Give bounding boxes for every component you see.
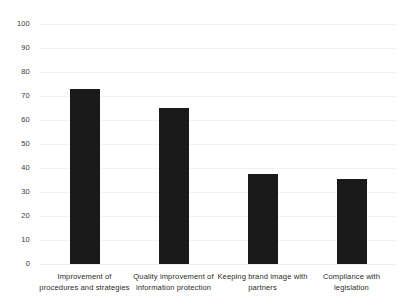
x-axis-category-label: Keeping brand image withpartners — [212, 272, 313, 293]
y-axis-tick-label: 60 — [0, 116, 30, 124]
bar — [248, 174, 278, 264]
bar — [70, 89, 100, 264]
x-axis-category-label-line: procedures and strategies — [34, 283, 135, 294]
bar — [337, 179, 367, 264]
x-axis-category-label-line: Improvement of — [34, 272, 135, 283]
x-axis-category-label-line: partners — [212, 283, 313, 294]
y-axis-tick-label: 40 — [0, 164, 30, 172]
x-axis-category-label-line: Quality improvement of — [123, 272, 224, 283]
x-axis-category-label: Improvement ofprocedures and strategies — [34, 272, 135, 293]
x-axis-category-label: Quality improvement ofinformation protec… — [123, 272, 224, 293]
y-axis-tick-label: 80 — [0, 68, 30, 76]
plot-area — [40, 24, 396, 264]
y-axis-tick-label: 90 — [0, 44, 30, 52]
x-axis-category-label-line: information protection — [123, 283, 224, 294]
x-axis-category-label-line: Keeping brand image with — [212, 272, 313, 283]
y-axis-tick-label: 100 — [0, 20, 30, 28]
x-axis-labels: Improvement ofprocedures and strategiesQ… — [40, 272, 396, 306]
gridline — [40, 264, 396, 265]
y-axis-tick-label: 0 — [0, 260, 30, 268]
bar-chart: 0102030405060708090100 Improvement ofpro… — [0, 0, 412, 306]
x-axis-category-label-line: legislation — [301, 283, 402, 294]
y-axis-tick-label: 20 — [0, 212, 30, 220]
y-axis-tick-label: 30 — [0, 188, 30, 196]
bar — [159, 108, 189, 264]
x-axis-category-label-line: Compliance with — [301, 272, 402, 283]
y-axis-tick-label: 10 — [0, 236, 30, 244]
bars-layer — [40, 24, 396, 264]
y-axis-tick-label: 50 — [0, 140, 30, 148]
y-axis-tick-label: 70 — [0, 92, 30, 100]
x-axis-category-label: Compliance withlegislation — [301, 272, 402, 293]
